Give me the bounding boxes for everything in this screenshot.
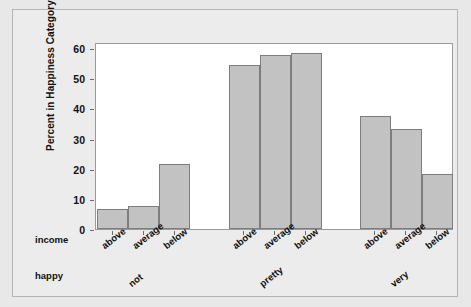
bar [97,209,128,230]
axis-name-happy: happy [35,270,63,281]
bar [159,164,190,229]
plot-area [95,43,453,230]
bar [391,129,422,229]
y-axis-tick-label: 30 [59,134,85,146]
y-axis-tick-mark [90,200,94,201]
x-axis-group-label: pretty [257,264,285,289]
y-axis-tick-label: 20 [59,164,85,176]
y-axis-tick-mark [90,140,94,141]
bar [260,55,291,229]
bar [422,174,453,229]
bar [291,53,322,229]
y-axis-tick-label: 50 [59,73,85,85]
y-axis-tick-mark [90,230,94,231]
y-axis-tick-label: 60 [59,43,85,55]
bar [229,65,260,229]
y-axis-tick-label: 10 [59,194,85,206]
y-axis-tick-mark [90,49,94,50]
chart-screenshot: Percent in Happiness Category 0102030405… [0,0,471,307]
x-axis-group-label: very [389,268,411,289]
bar [360,116,391,229]
y-axis-tick-mark [90,79,94,80]
figure-frame: Percent in Happiness Category 0102030405… [12,9,458,297]
y-axis-tick-label: 40 [59,103,85,115]
axis-name-income: income [35,234,68,245]
y-axis-title: Percent in Happiness Category [45,0,56,171]
bars-container [96,44,452,229]
y-axis-tick-mark [90,170,94,171]
y-axis-tick-mark [90,109,94,110]
x-axis-group-label: not [126,271,144,289]
